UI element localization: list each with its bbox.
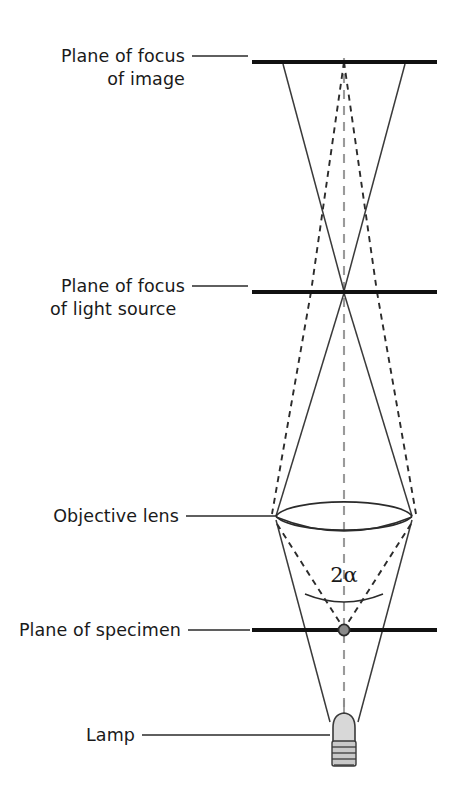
label-objective-lens: Objective lens (53, 506, 179, 526)
optics-diagram: Plane of focus of image Plane of focus o… (0, 0, 464, 791)
label-plane-of-specimen: Plane of specimen (19, 620, 181, 640)
ray-solid-middle-left (276, 293, 344, 516)
ray-solid-upper-left (283, 64, 344, 291)
ray-dashed-upper-right (344, 62, 377, 292)
label-aperture-angle: 2α (330, 563, 358, 587)
specimen-point (338, 624, 349, 635)
label-plane-of-focus-of-image-line2: of image (107, 69, 185, 89)
label-plane-of-focus-of-light-source-line1: Plane of focus (61, 276, 185, 296)
label-plane-of-focus-of-image-line1: Plane of focus (61, 46, 185, 66)
ray-solid-lower-left (276, 520, 330, 722)
label-lamp: Lamp (86, 725, 135, 745)
ray-solid-upper-right (344, 64, 405, 291)
label-plane-of-focus-of-light-source-line2: of light source (50, 299, 176, 319)
ray-solid-lower-right (358, 520, 412, 722)
ray-dashed-middle-left (272, 292, 311, 514)
ray-dashed-middle-right (377, 292, 416, 514)
ray-dashed-upper-left (311, 62, 344, 292)
aperture-angle-arc (305, 594, 383, 602)
ray-solid-middle-right (344, 293, 412, 516)
lamp-bulb (332, 700, 356, 766)
optics-svg: Plane of focus of image Plane of focus o… (0, 0, 464, 791)
lamp-glass-dome (333, 713, 355, 742)
